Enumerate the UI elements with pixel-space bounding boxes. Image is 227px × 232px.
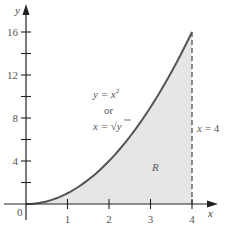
origin-label: 0: [17, 206, 23, 218]
y-axis-label: y: [14, 4, 20, 16]
y-ticks: 481216: [7, 26, 31, 183]
boundary-label: x= 4: [196, 122, 220, 134]
y-tick-label: 4: [13, 155, 19, 167]
shaded-region-r: [26, 32, 192, 204]
x-tick-label: 3: [148, 213, 154, 225]
y-tick-label: 16: [7, 26, 19, 38]
curve-equation-line2-lhs: x =: [92, 120, 111, 132]
y-axis-arrow-icon: [23, 4, 30, 15]
curve-equation-line2-arg: y: [116, 120, 122, 132]
x-tick-label: 1: [65, 213, 71, 225]
y-tick-label: 12: [7, 69, 18, 81]
x-tick-label: 4: [189, 213, 195, 225]
curve-equation-line2: x = √y: [92, 120, 122, 132]
x-axis-label: x: [207, 207, 213, 219]
x-tick-label: 2: [106, 213, 112, 225]
curve-equation-exponent: 2: [116, 87, 120, 95]
parabola-area-chart: 1234 481216 x y 0 y = x2 or x = √y x= 4 …: [0, 0, 227, 232]
curve-equation-line1: y = x2: [92, 87, 120, 100]
y-tick-label: 8: [13, 112, 19, 124]
curve-equation-lhs: y = x: [92, 88, 116, 100]
boundary-label-lhs: x: [196, 122, 202, 134]
region-label: R: [151, 161, 159, 173]
curve-equation-or: or: [104, 104, 114, 116]
boundary-label-rhs: = 4: [205, 122, 220, 134]
